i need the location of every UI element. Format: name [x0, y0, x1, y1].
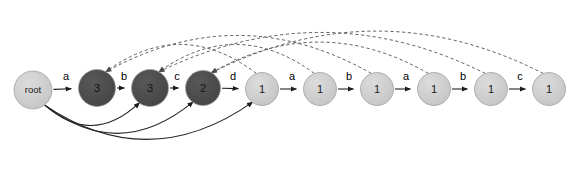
- node-n1[interactable]: [79, 70, 116, 107]
- edge-label-n2-n3: c: [174, 71, 180, 82]
- edge-label-n5-n6: b: [346, 71, 352, 82]
- suffix-link-n8-n2: [159, 32, 486, 73]
- edge-label-n6-n7: a: [403, 71, 409, 82]
- suffix-link-layer: [106, 31, 544, 73]
- node-n6[interactable]: [361, 73, 394, 106]
- node-n7[interactable]: [418, 73, 451, 106]
- graph-svg: [0, 0, 572, 172]
- edge-label-n1-n2: b: [121, 71, 127, 82]
- diagram-canvas-container: abcdababcroot332111111: [0, 0, 572, 172]
- chain-edge-layer: [53, 88, 525, 89]
- node-n8[interactable]: [475, 73, 508, 106]
- node-n3[interactable]: [186, 71, 221, 106]
- node-n2[interactable]: [132, 70, 169, 107]
- node-n4[interactable]: [246, 73, 279, 106]
- edge-label-n7-n8: b: [460, 71, 466, 82]
- node-n5[interactable]: [304, 73, 337, 106]
- chain-edge-root-n1: [53, 89, 71, 90]
- edge-label-n4-n5: a: [289, 71, 295, 82]
- edge-label-root-n1: a: [63, 71, 69, 82]
- root-curved-edge-layer: [45, 102, 253, 140]
- suffix-link-n6-n1: [106, 35, 372, 73]
- root-curve-root-n4: [45, 102, 253, 140]
- node-root[interactable]: [14, 71, 52, 109]
- suffix-link-n9-n3: [211, 31, 543, 73]
- edge-label-n3-n4: d: [230, 71, 236, 82]
- node-n9[interactable]: [533, 73, 566, 106]
- edge-label-n8-n9: c: [517, 71, 523, 82]
